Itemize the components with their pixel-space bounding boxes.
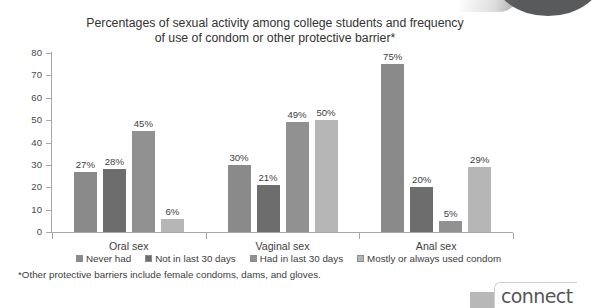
x-axis-tick xyxy=(359,233,360,239)
bar: 30% xyxy=(228,165,251,232)
bar: 5% xyxy=(439,221,462,232)
bar-value-label: 75% xyxy=(383,51,402,62)
bar-value-label: 45% xyxy=(134,118,153,129)
bar: 21% xyxy=(257,185,280,232)
x-axis-tick xyxy=(52,233,53,239)
bar-value-label: 21% xyxy=(258,172,277,183)
legend-item[interactable]: Mostly or always used condom xyxy=(357,253,501,264)
y-axis-tick-label: 30 xyxy=(18,159,42,170)
x-axis-group-label: Oral sex xyxy=(109,240,148,252)
bar: 75% xyxy=(381,64,404,232)
bar: 20% xyxy=(410,187,433,232)
bar: 28% xyxy=(103,169,126,232)
bar: 49% xyxy=(286,122,309,232)
x-axis-group-label: Anal sex xyxy=(416,240,457,252)
y-axis-tick-label: 0 xyxy=(18,226,42,237)
bar-value-label: 20% xyxy=(412,174,431,185)
legend-swatch-icon xyxy=(357,255,364,262)
bar-value-label: 30% xyxy=(229,152,248,163)
bar-value-label: 50% xyxy=(316,107,335,118)
connect-logo[interactable]: connect xyxy=(494,282,577,308)
legend-label: Mostly or always used condom xyxy=(367,253,501,264)
plot-area: 27%28%45%6%30%21%49%50%75%20%5%29% xyxy=(52,53,513,232)
chart-title: Percentages of sexual activity among col… xyxy=(40,16,510,46)
y-axis-tick-label: 50 xyxy=(18,114,42,125)
chart-legend: Never hadNot in last 30 daysHad in last … xyxy=(0,253,577,264)
bar: 6% xyxy=(161,219,184,232)
connect-logo-text: connect xyxy=(501,285,573,307)
bar-value-label: 5% xyxy=(444,208,458,219)
y-axis-tick-label: 60 xyxy=(18,92,42,103)
bar: 27% xyxy=(74,172,97,232)
legend-item[interactable]: Not in last 30 days xyxy=(145,253,236,264)
bar-value-label: 27% xyxy=(76,159,95,170)
chart-footnote: *Other protective barriers include femal… xyxy=(18,269,321,280)
bar-value-label: 28% xyxy=(105,156,124,167)
legend-swatch-icon xyxy=(145,255,152,262)
y-axis-tick-label: 40 xyxy=(18,137,42,148)
legend-swatch-icon xyxy=(250,255,257,262)
legend-label: Had in last 30 days xyxy=(260,253,343,264)
legend-swatch-icon xyxy=(76,255,83,262)
bar-value-label: 49% xyxy=(287,109,306,120)
x-axis-line xyxy=(51,232,513,233)
y-axis-tick-label: 10 xyxy=(18,204,42,215)
x-axis-tick xyxy=(206,233,207,239)
legend-label: Never had xyxy=(86,253,131,264)
bar: 50% xyxy=(315,120,338,232)
bar-value-label: 6% xyxy=(165,206,179,217)
bar-value-label: 29% xyxy=(470,154,489,165)
bar: 45% xyxy=(132,131,155,232)
bar: 29% xyxy=(468,167,491,232)
x-axis-group-label: Vaginal sex xyxy=(256,240,310,252)
y-axis-tick-label: 70 xyxy=(18,69,42,80)
y-axis-tick-label: 20 xyxy=(18,181,42,192)
legend-item[interactable]: Had in last 30 days xyxy=(250,253,343,264)
y-axis-tick-label: 80 xyxy=(18,47,42,58)
legend-item[interactable]: Never had xyxy=(76,253,131,264)
legend-label: Not in last 30 days xyxy=(155,253,236,264)
bar-chart: Percentages of sexual activity among col… xyxy=(0,0,577,292)
x-axis-tick xyxy=(513,233,514,239)
bottom-strip: connect xyxy=(0,286,577,308)
